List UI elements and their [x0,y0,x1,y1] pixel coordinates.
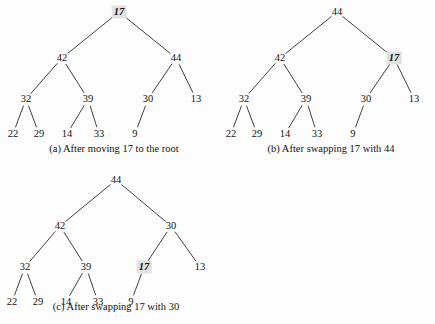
tree-edge [29,106,37,127]
tree-node: 33 [94,129,105,140]
tree-node: 42 [275,53,286,64]
tree-edge [234,106,242,127]
tree-node: 9 [132,129,137,140]
tree-node: 42 [55,221,66,232]
tree-node-highlighted: 17 [137,261,152,274]
tree-edges-b [218,0,435,160]
tree-edge [284,64,302,92]
tree-node: 22 [226,129,237,140]
tree-node: 13 [191,94,202,105]
tree-edge [16,106,24,127]
tree-node: 44 [171,53,182,64]
tree-node: 42 [57,53,68,64]
tree-node: 30 [143,94,154,105]
tree-node: 30 [361,94,372,105]
tree-edge [249,64,275,94]
tree-edge [90,106,97,127]
tree-edge [64,232,82,260]
tree-edge [68,17,113,54]
tree-node: 32 [21,94,32,105]
tree-edge [15,274,23,295]
tree-edge [356,106,364,127]
tree-node-highlighted: 17 [387,52,402,65]
tree-edge [343,17,388,54]
panel-caption-a: (a) After moving 17 to the root [49,143,178,155]
tree-node: 22 [7,297,18,308]
tree-node: 44 [111,175,122,186]
tree-edge [28,274,36,295]
tree-edge [134,274,142,295]
tree-edge [152,64,172,93]
heap-sift-down-figure: 17424432393013222914339(a) After moving … [0,0,435,324]
tree-node: 29 [34,129,45,140]
tree-node: 32 [20,262,31,273]
tree-edge [289,105,302,127]
tree-edge [88,274,95,295]
tree-node-highlighted: 17 [112,6,127,19]
tree-node: 14 [62,129,73,140]
tree-edge [308,106,315,127]
tree-edge [175,232,195,261]
tree-node: 9 [350,129,355,140]
tree-edge [122,185,166,221]
tree-node: 33 [312,129,323,140]
tree-node: 39 [83,94,94,105]
tree-edge [138,106,146,127]
panel-caption-b: (b) After swapping 17 with 44 [268,143,395,155]
tree-node: 14 [280,129,291,140]
tree-edge [66,64,84,92]
tree-edge [70,274,83,296]
tree-edge [397,65,410,93]
tree-node: 29 [33,297,44,308]
tree-edge [30,232,55,262]
tree-edge [286,17,331,54]
tree-edge [125,17,170,54]
tree-node: 39 [81,262,92,273]
tree-panel-a: 17424432393013222914339 [0,0,218,160]
tree-edge [370,64,390,93]
tree-edge [148,232,167,260]
tree-node: 29 [252,129,263,140]
tree-node: 22 [8,129,19,140]
tree-edge [71,105,84,127]
tree-node: 13 [195,262,206,273]
tree-edge [179,65,192,93]
tree-edge [31,64,57,94]
tree-node: 39 [301,94,312,105]
tree-node: 32 [239,94,250,105]
tree-panel-b: 44421732393013222914339 [218,0,435,160]
tree-edge [247,106,255,127]
tree-node: 30 [166,221,177,232]
panel-caption-c: (c) After swapping 17 with 30 [53,301,179,313]
tree-node: 44 [332,7,343,18]
tree-edge [66,185,110,221]
tree-node: 13 [409,94,420,105]
